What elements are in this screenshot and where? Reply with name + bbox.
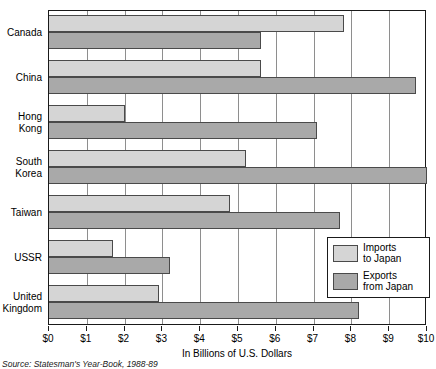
legend-swatch-imports bbox=[333, 245, 358, 262]
x-tick-label: $5 bbox=[222, 333, 252, 344]
x-tick-label: $1 bbox=[71, 333, 101, 344]
bar bbox=[49, 212, 340, 229]
x-tick bbox=[48, 326, 49, 331]
bar-group bbox=[49, 146, 425, 191]
bar-group bbox=[49, 191, 425, 236]
legend-label-imports: Imports to Japan bbox=[363, 242, 401, 264]
source-note: Source: Statesman's Year-Book, 1988-89 bbox=[2, 359, 158, 369]
x-tick-label: $3 bbox=[146, 333, 176, 344]
bar-group bbox=[49, 101, 425, 146]
x-tick bbox=[388, 326, 389, 331]
x-tick bbox=[237, 326, 238, 331]
bar-chart: CanadaChinaHong KongSouth KoreaTaiwanUSS… bbox=[0, 0, 436, 369]
legend-label-exports: Exports from Japan bbox=[363, 270, 413, 292]
bar bbox=[49, 150, 246, 167]
bar bbox=[49, 60, 261, 77]
x-tick bbox=[313, 326, 314, 331]
chart-legend: Imports to Japan Exports from Japan bbox=[327, 237, 430, 298]
legend-swatch-exports bbox=[333, 273, 358, 290]
bar bbox=[49, 122, 317, 139]
category-label: Taiwan bbox=[0, 190, 42, 235]
category-label: Canada bbox=[0, 10, 42, 55]
category-axis-labels: CanadaChinaHong KongSouth KoreaTaiwanUSS… bbox=[0, 10, 46, 325]
x-tick-label: $6 bbox=[260, 333, 290, 344]
x-tick-label: $7 bbox=[298, 333, 328, 344]
x-tick bbox=[275, 326, 276, 331]
bar bbox=[49, 77, 416, 94]
x-tick-label: $2 bbox=[109, 333, 139, 344]
x-tick-label: $10 bbox=[411, 333, 436, 344]
category-label: Hong Kong bbox=[0, 100, 42, 145]
x-tick bbox=[124, 326, 125, 331]
bar bbox=[49, 257, 170, 274]
bar bbox=[49, 32, 261, 49]
bar-group bbox=[49, 11, 425, 56]
x-tick bbox=[199, 326, 200, 331]
bar-group bbox=[49, 56, 425, 101]
bar bbox=[49, 105, 125, 122]
bar bbox=[49, 15, 344, 32]
x-tick bbox=[161, 326, 162, 331]
bar bbox=[49, 167, 427, 184]
category-label: United Kingdom bbox=[0, 280, 42, 325]
bar bbox=[49, 285, 159, 302]
x-tick-label: $9 bbox=[373, 333, 403, 344]
category-label: South Korea bbox=[0, 145, 42, 190]
legend-item-imports: Imports to Japan bbox=[333, 242, 425, 264]
bar bbox=[49, 195, 230, 212]
x-axis-title: In Billions of U.S. Dollars bbox=[48, 348, 426, 359]
x-tick bbox=[86, 326, 87, 331]
bar bbox=[49, 240, 113, 257]
bar bbox=[49, 302, 359, 319]
category-label: China bbox=[0, 55, 42, 100]
x-tick-label: $0 bbox=[33, 333, 63, 344]
x-tick bbox=[350, 326, 351, 331]
x-tick-label: $4 bbox=[184, 333, 214, 344]
x-tick bbox=[426, 326, 427, 331]
legend-item-exports: Exports from Japan bbox=[333, 270, 425, 292]
category-label: USSR bbox=[0, 235, 42, 280]
x-tick-label: $8 bbox=[335, 333, 365, 344]
x-axis-ticks bbox=[48, 326, 426, 332]
